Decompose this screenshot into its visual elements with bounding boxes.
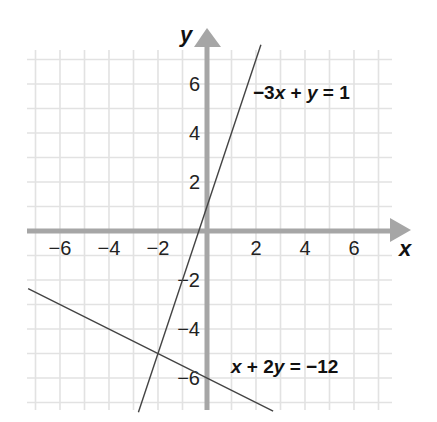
y-tick-label: 4 [189,122,200,144]
eq1-plus: + [285,82,307,103]
x-tick-label: 6 [348,237,359,259]
y-axis-arrow-icon [194,28,221,47]
eq2-plus-2: + 2 [242,356,274,377]
y-tick-label: 2 [189,171,200,193]
x-tick-label: −2 [147,237,170,259]
y-axis-label: y [179,22,194,47]
y-tick-label: −6 [177,367,200,389]
eq1-coef: −3 [253,82,275,103]
x-tick-label: 2 [250,237,261,259]
eq1-rhs: = 1 [317,82,350,103]
x-tick-label: −4 [98,237,121,259]
coordinate-plane: −6−4−2246642−2−4−6 y x −3x + y = 1 x + 2… [0,0,437,422]
equation-label-2: x + 2y = −12 [230,356,338,377]
y-tick-label: 6 [189,73,200,95]
x-tick-label: −6 [49,237,72,259]
eq2-rhs: = −12 [284,356,338,377]
equation-label-1: −3x + y = 1 [253,82,350,103]
line-series-2 [28,289,273,412]
y-tick-label: −4 [177,318,200,340]
x-axis-label: x [398,236,412,261]
x-tick-label: 4 [299,237,310,259]
